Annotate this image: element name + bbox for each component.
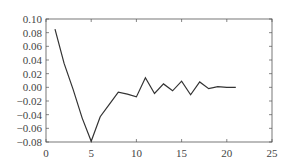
- y-tick-label: −0.04: [17, 109, 43, 121]
- y-tick-label: −0.08: [17, 136, 43, 148]
- x-tick-label: 15: [176, 147, 188, 159]
- x-tick-label: 25: [267, 147, 279, 159]
- y-tick-label: −0.06: [17, 122, 43, 134]
- plot-frame: [46, 19, 272, 142]
- x-tick-label: 5: [88, 147, 94, 159]
- y-tick-label: 0.02: [23, 68, 42, 80]
- x-tick-label: 20: [221, 147, 233, 159]
- x-tick-label: 0: [43, 147, 49, 159]
- line-chart: 0.100.080.060.040.020.00−0.02−0.04−0.06−…: [0, 0, 288, 168]
- y-tick-label: −0.02: [17, 95, 42, 107]
- data-line: [55, 29, 236, 141]
- y-tick-label: 0.08: [23, 27, 43, 39]
- plot-border: [46, 19, 272, 142]
- x-axis: 0510152025: [43, 19, 278, 159]
- y-tick-label: 0.10: [23, 13, 43, 25]
- y-tick-label: 0.04: [23, 54, 43, 66]
- x-tick-label: 10: [131, 147, 143, 159]
- y-tick-label: 0.06: [23, 40, 43, 52]
- y-tick-label: 0.00: [23, 81, 43, 93]
